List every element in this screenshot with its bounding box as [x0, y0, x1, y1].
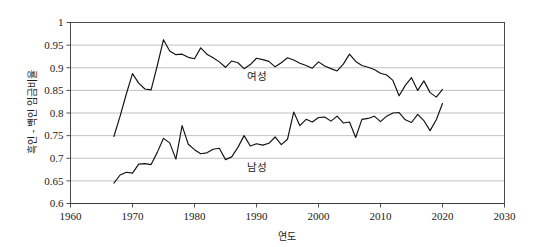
chart-container: 0.60.650.70.750.80.850.90.951 1960197019…	[0, 0, 547, 247]
series-annotation-male: 남성	[247, 161, 267, 173]
x-axis-label: 연도	[278, 231, 296, 242]
x-tick-label: 1970	[122, 210, 145, 222]
x-tick-label: 1980	[184, 210, 207, 222]
y-tick-label: 0.8	[50, 107, 64, 119]
x-tick-label: 2030	[494, 210, 517, 222]
x-tick-label: 2020	[432, 210, 455, 222]
y-tick-label: 0.9	[50, 62, 64, 74]
x-tick-label: 1960	[60, 210, 83, 222]
y-tick-label: 0.7	[50, 152, 64, 164]
x-tick-label: 2010	[370, 210, 393, 222]
y-axis-label: 흑인 - 백인 임금비율	[26, 70, 38, 154]
wage-ratio-line-chart: 0.60.650.70.750.80.850.90.951 1960197019…	[0, 0, 547, 247]
chart-background	[0, 0, 547, 247]
y-tick-label: 0.65	[44, 175, 64, 187]
y-tick-label: 1	[58, 16, 64, 28]
y-tick-label: 0.6	[50, 197, 64, 209]
x-tick-label: 1990	[246, 210, 269, 222]
y-tick-label: 0.95	[44, 39, 64, 51]
x-tick-label: 2000	[308, 210, 331, 222]
series-annotation-female: 여성	[247, 70, 267, 82]
y-tick-label: 0.85	[44, 84, 64, 96]
y-tick-label: 0.75	[44, 129, 64, 141]
